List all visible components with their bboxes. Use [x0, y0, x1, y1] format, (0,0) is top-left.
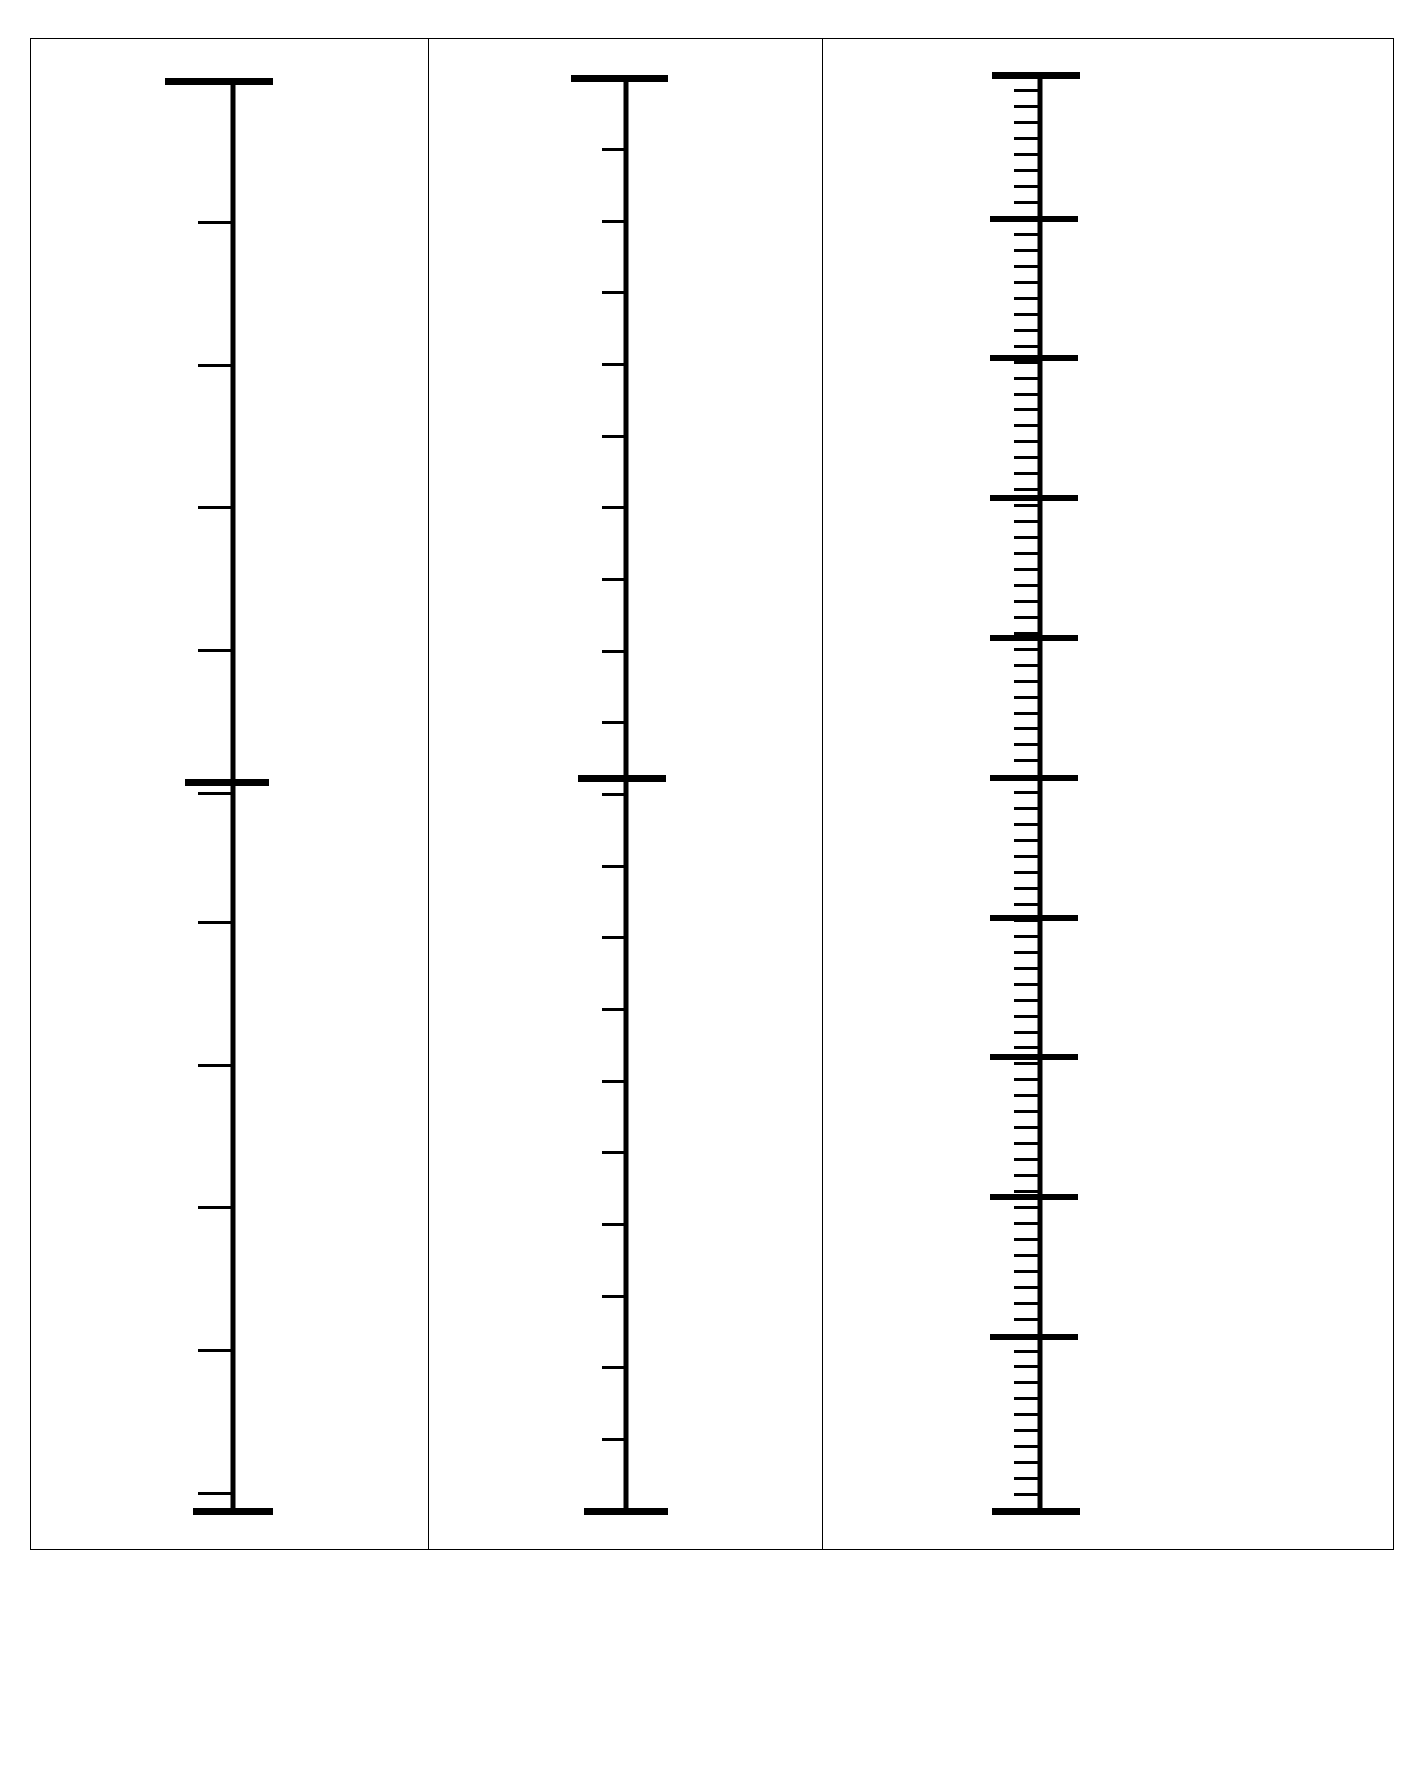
- ruler-minor-tick: [602, 435, 627, 438]
- ruler-top-cap: [165, 78, 273, 85]
- panel-scale-coarse[interactable]: [30, 38, 430, 1550]
- ruler-minor-tick: [1014, 664, 1041, 667]
- ruler-top-cap: [571, 75, 668, 82]
- ruler-minor-tick: [1014, 1381, 1041, 1384]
- ruler-minor-tick: [1014, 552, 1041, 555]
- ruler-minor-tick: [602, 1295, 627, 1298]
- ruler-minor-tick: [1014, 1493, 1041, 1496]
- ruler-bottom-cap: [584, 1508, 668, 1515]
- ruler-minor-tick: [1014, 1078, 1041, 1081]
- ruler-minor-tick: [1014, 329, 1041, 332]
- ruler-minor-tick: [1014, 233, 1041, 236]
- ruler-major-tick: [990, 1054, 1078, 1060]
- ruler-minor-tick: [1014, 887, 1041, 890]
- ruler-minor-tick: [1014, 1429, 1041, 1432]
- ruler-minor-tick: [1014, 1254, 1041, 1257]
- ruler-minor-tick: [1014, 616, 1041, 619]
- ruler-minor-tick: [1014, 1413, 1041, 1416]
- ruler-minor-tick: [602, 1366, 627, 1369]
- ruler-minor-tick: [1014, 999, 1041, 1002]
- ruler-minor-tick: [1014, 823, 1041, 826]
- ruler-minor-tick: [602, 721, 627, 724]
- ruler-minor-tick: [602, 506, 627, 509]
- ruler-minor-tick: [1014, 1110, 1041, 1113]
- ruler-minor-tick: [1014, 1286, 1041, 1289]
- ruler-major-tick: [990, 1334, 1078, 1340]
- ruler-minor-tick: [1014, 855, 1041, 858]
- ruler-major-tick: [185, 779, 269, 786]
- ruler-minor-tick: [198, 649, 234, 652]
- page-canvas: [0, 0, 1425, 1773]
- ruler-minor-tick: [1014, 951, 1041, 954]
- ruler-minor-tick: [602, 1151, 627, 1154]
- ruler-major-tick: [990, 355, 1078, 361]
- ruler-minor-tick: [1014, 1461, 1041, 1464]
- ruler-minor-tick: [1014, 1477, 1041, 1480]
- ruler-minor-tick: [1014, 1238, 1041, 1241]
- ruler-minor-tick: [1014, 1142, 1041, 1145]
- ruler-minor-tick: [198, 221, 234, 224]
- ruler-minor-tick: [1014, 121, 1041, 124]
- ruler-bottom-cap: [992, 1508, 1080, 1515]
- panel-scale-medium[interactable]: [428, 38, 823, 1550]
- ruler-minor-tick: [1014, 313, 1041, 316]
- ruler-major-tick: [990, 1194, 1078, 1200]
- ruler-minor-tick: [1014, 1062, 1041, 1065]
- ruler-minor-tick: [602, 148, 627, 151]
- ruler-minor-tick: [1014, 265, 1041, 268]
- ruler-minor-tick: [1014, 727, 1041, 730]
- ruler-minor-tick: [198, 364, 234, 367]
- ruler-minor-tick: [1014, 297, 1041, 300]
- ruler-minor-tick: [1014, 361, 1041, 364]
- ruler-minor-tick: [1014, 1174, 1041, 1177]
- ruler-minor-tick: [602, 793, 627, 796]
- ruler-minor-tick: [1014, 393, 1041, 396]
- ruler-minor-tick: [1014, 584, 1041, 587]
- panel-scale-fine[interactable]: [822, 38, 1394, 1550]
- ruler-spine: [231, 81, 236, 1511]
- ruler-minor-tick: [1014, 377, 1041, 380]
- ruler-minor-tick: [602, 220, 627, 223]
- ruler-minor-tick: [1014, 185, 1041, 188]
- ruler-minor-tick: [1014, 903, 1041, 906]
- ruler-minor-tick: [1014, 1302, 1041, 1305]
- ruler-minor-tick: [198, 1349, 234, 1352]
- ruler-minor-tick: [1014, 1046, 1041, 1049]
- ruler-minor-tick: [1014, 472, 1041, 475]
- ruler-minor-tick: [1014, 648, 1041, 651]
- ruler-minor-tick: [1014, 696, 1041, 699]
- ruler-minor-tick: [1014, 568, 1041, 571]
- ruler-minor-tick: [602, 1008, 627, 1011]
- ruler-minor-tick: [602, 363, 627, 366]
- ruler-minor-tick: [602, 291, 627, 294]
- ruler-minor-tick: [1014, 680, 1041, 683]
- ruler-minor-tick: [602, 650, 627, 653]
- ruler-minor-tick: [1014, 424, 1041, 427]
- ruler-minor-tick: [1014, 712, 1041, 715]
- ruler-minor-tick: [602, 578, 627, 581]
- ruler-minor-tick: [1014, 1126, 1041, 1129]
- ruler-minor-tick: [1014, 1445, 1041, 1448]
- ruler-minor-tick: [1014, 600, 1041, 603]
- ruler-minor-tick: [1014, 1350, 1041, 1353]
- ruler-minor-tick: [198, 921, 234, 924]
- ruler-minor-tick: [1014, 1222, 1041, 1225]
- ruler-major-tick: [990, 915, 1078, 921]
- ruler-minor-tick: [602, 1223, 627, 1226]
- ruler-minor-tick: [198, 1064, 234, 1067]
- ruler-minor-tick: [602, 865, 627, 868]
- ruler-minor-tick: [1014, 1318, 1041, 1321]
- ruler-minor-tick: [1014, 169, 1041, 172]
- ruler-major-tick: [990, 635, 1078, 641]
- ruler-minor-tick: [1014, 791, 1041, 794]
- ruler-minor-tick: [1014, 488, 1041, 491]
- ruler-minor-tick: [1014, 456, 1041, 459]
- ruler-minor-tick: [198, 506, 234, 509]
- ruler-minor-tick: [1014, 408, 1041, 411]
- ruler-minor-tick: [1014, 504, 1041, 507]
- ruler-minor-tick: [1014, 249, 1041, 252]
- ruler-major-tick: [990, 216, 1078, 222]
- ruler-top-cap: [992, 72, 1080, 79]
- ruler-minor-tick: [1014, 1190, 1041, 1193]
- ruler-minor-tick: [602, 936, 627, 939]
